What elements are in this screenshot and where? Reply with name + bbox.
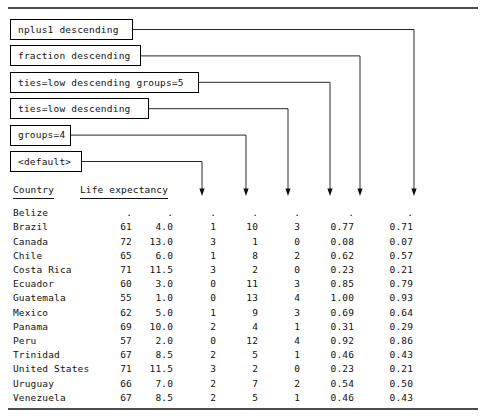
cell-c6: 0.07 <box>354 235 413 249</box>
cell-c2: 1 <box>173 220 216 234</box>
cell-c1: 2.0 <box>132 334 173 348</box>
cell-pad <box>413 334 486 348</box>
cell-pad <box>413 291 486 305</box>
callout-box-1[interactable]: nplus1 descending <box>10 19 133 40</box>
cell-country: Mexico <box>0 306 80 320</box>
figure-stage: nplus1 descendingfraction descendingties… <box>0 0 486 420</box>
data-table: Country Life expectancy Belize.......Bra… <box>0 183 486 405</box>
callout-connector-3 <box>199 82 330 189</box>
cell-c4: 3 <box>258 306 300 320</box>
cell-c2: 3 <box>173 362 216 376</box>
cell-c6: . <box>354 206 413 220</box>
cell-c2: . <box>173 206 216 220</box>
cell-country: Guatemala <box>0 291 80 305</box>
cell-c3: 2 <box>216 362 258 376</box>
cell-c3: 2 <box>216 263 258 277</box>
table-row: Uruguay667.02720.540.50 <box>0 377 486 391</box>
callout-connector-1 <box>133 30 414 190</box>
cell-c1: 1.0 <box>132 291 173 305</box>
callout-box-5[interactable]: groups=4 <box>10 125 71 146</box>
header-life-expectancy: Life expectancy <box>80 183 173 201</box>
cell-life: 55 <box>80 291 132 305</box>
cell-c6: 0.43 <box>354 391 413 405</box>
cell-life: 72 <box>80 235 132 249</box>
cell-c4: 4 <box>258 291 300 305</box>
cell-c4: 0 <box>258 235 300 249</box>
cell-c5: 0.77 <box>300 220 354 234</box>
cell-pad <box>413 391 486 405</box>
callout-box-3[interactable]: ties=low descending groups=5 <box>10 72 199 93</box>
cell-c4: 0 <box>258 263 300 277</box>
cell-pad <box>413 348 486 362</box>
cell-country: Venezuela <box>0 391 80 405</box>
callout-box-4[interactable]: ties=low descending <box>10 98 149 119</box>
header-col5 <box>258 183 300 201</box>
cell-pad <box>413 362 486 376</box>
cell-c1: 6.0 <box>132 249 173 263</box>
callout-box-label: nplus1 descending <box>18 25 119 35</box>
cell-life: 65 <box>80 249 132 263</box>
cell-c2: 2 <box>173 348 216 362</box>
cell-c5: 0.23 <box>300 263 354 277</box>
cell-c3: 13 <box>216 291 258 305</box>
callout-box-label: ties=low descending <box>18 104 130 114</box>
cell-country: Costa Rica <box>0 263 80 277</box>
cell-c1: 8.5 <box>132 348 173 362</box>
cell-life: 71 <box>80 263 132 277</box>
cell-c1: 11.5 <box>132 362 173 376</box>
cell-life: 60 <box>80 277 132 291</box>
cell-c4: 3 <box>258 220 300 234</box>
cell-c3: 10 <box>216 220 258 234</box>
cell-pad <box>413 206 486 220</box>
cell-c2: 2 <box>173 377 216 391</box>
cell-c6: 0.64 <box>354 306 413 320</box>
cell-c3: 1 <box>216 235 258 249</box>
cell-c6: 0.29 <box>354 320 413 334</box>
table-row: United States7111.53200.230.21 <box>0 362 486 376</box>
header-col7 <box>354 183 413 201</box>
cell-c5: 0.08 <box>300 235 354 249</box>
table-row: Trinidad678.52510.460.43 <box>0 348 486 362</box>
cell-c5: . <box>300 206 354 220</box>
cell-life: 61 <box>80 220 132 234</box>
table-body: Belize.......Brazil614.011030.770.71Cana… <box>0 206 486 405</box>
cell-pad <box>413 320 486 334</box>
cell-country: Chile <box>0 249 80 263</box>
table-row: Guatemala551.001341.000.93 <box>0 291 486 305</box>
cell-c6: 0.71 <box>354 220 413 234</box>
cell-c5: 0.69 <box>300 306 354 320</box>
cell-c3: 9 <box>216 306 258 320</box>
cell-c4: 1 <box>258 391 300 405</box>
callout-box-6[interactable]: <default> <box>10 151 82 172</box>
cell-c5: 0.46 <box>300 348 354 362</box>
cell-c2: 3 <box>173 263 216 277</box>
cell-c5: 0.23 <box>300 362 354 376</box>
cell-c1: 4.0 <box>132 220 173 234</box>
cell-c6: 0.93 <box>354 291 413 305</box>
cell-life: 57 <box>80 334 132 348</box>
callout-box-2[interactable]: fraction descending <box>10 45 141 66</box>
cell-life: 66 <box>80 377 132 391</box>
cell-life: 67 <box>80 391 132 405</box>
table-header-row: Country Life expectancy <box>0 183 486 201</box>
cell-pad <box>413 377 486 391</box>
callout-connector-5 <box>71 135 246 189</box>
table-row: Belize....... <box>0 206 486 220</box>
cell-c6: 0.50 <box>354 377 413 391</box>
header-country-label: Country <box>13 183 54 199</box>
table-row: Brazil614.011030.770.71 <box>0 220 486 234</box>
cell-c6: 0.43 <box>354 348 413 362</box>
cell-c3: 5 <box>216 348 258 362</box>
cell-country: Canada <box>0 235 80 249</box>
header-col6 <box>300 183 354 201</box>
cell-c4: 2 <box>258 249 300 263</box>
cell-c6: 0.21 <box>354 362 413 376</box>
cell-c1: . <box>132 206 173 220</box>
cell-country: Belize <box>0 206 80 220</box>
callout-box-label: groups=4 <box>18 130 65 140</box>
cell-pad <box>413 306 486 320</box>
header-life-expectancy-label: Life expectancy <box>80 183 168 199</box>
cell-c5: 0.85 <box>300 277 354 291</box>
cell-pad <box>413 277 486 291</box>
cell-c1: 7.0 <box>132 377 173 391</box>
